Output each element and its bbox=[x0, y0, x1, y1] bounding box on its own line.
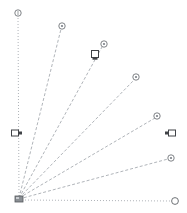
origin-node[interactable] bbox=[15, 196, 23, 202]
handle-right-square-icon[interactable] bbox=[165, 130, 176, 136]
ray-4-endpoint-circle-icon[interactable] bbox=[154, 113, 160, 119]
ray-2-endpoint-circle-icon[interactable] bbox=[101, 41, 107, 47]
ray-5-line[interactable] bbox=[19, 159, 168, 199]
ray-3-endpoint-circle-icon[interactable] bbox=[133, 74, 139, 80]
horizontal-axis-endpoint-circle-icon[interactable] bbox=[172, 198, 179, 205]
handle-left-square-icon[interactable] bbox=[12, 130, 23, 136]
ray-5-endpoint-circle-icon[interactable] bbox=[168, 155, 174, 161]
ray-1-line[interactable] bbox=[19, 29, 61, 198]
ray-4-line[interactable] bbox=[19, 118, 155, 198]
ray-endpoints-group bbox=[59, 23, 174, 161]
axis-endpoints-group bbox=[15, 10, 179, 205]
handles-group bbox=[12, 51, 176, 137]
handle-ray-2-square-icon[interactable] bbox=[92, 51, 99, 60]
radial-fan-diagram bbox=[0, 0, 187, 213]
ray-3-line[interactable] bbox=[19, 80, 134, 198]
vertical-axis-line[interactable] bbox=[18, 16, 19, 199]
ray-2-line[interactable] bbox=[19, 47, 102, 198]
diagram-canvas bbox=[0, 0, 187, 213]
ray-1-endpoint-circle-icon[interactable] bbox=[59, 23, 65, 29]
vertical-axis-endpoint-circle-icon[interactable] bbox=[15, 10, 21, 16]
horizontal-axis-line[interactable] bbox=[19, 200, 171, 201]
